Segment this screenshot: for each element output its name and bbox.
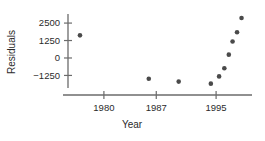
scatter-chart: −1250012502500 198019871995 Year Residua… <box>0 0 265 141</box>
x-axis: 198019871995 <box>63 91 252 113</box>
y-axis-title: Residuals <box>6 30 17 74</box>
x-tick-label: 1980 <box>93 102 114 113</box>
data-point <box>235 30 240 35</box>
y-tick-label: 1250 <box>39 35 60 46</box>
y-tick-label: −1250 <box>33 70 60 81</box>
data-point <box>176 79 181 84</box>
x-tick-label: 1987 <box>146 102 167 113</box>
data-point <box>239 16 244 21</box>
y-tick-label: 2500 <box>39 17 60 28</box>
x-tick-label: 1995 <box>206 102 227 113</box>
data-point <box>217 74 222 79</box>
data-point-group <box>78 16 244 86</box>
data-point <box>230 39 235 44</box>
y-tick-label: 0 <box>55 52 60 63</box>
chart-canvas: −1250012502500 198019871995 Year Residua… <box>0 0 265 141</box>
data-point <box>78 33 83 38</box>
data-point <box>146 76 151 81</box>
y-axis: −1250012502500 <box>33 14 72 88</box>
x-tick-group: 198019871995 <box>93 91 226 113</box>
x-axis-title: Year <box>122 119 143 130</box>
data-point <box>222 66 227 71</box>
y-tick-group: −1250012502500 <box>33 17 72 80</box>
data-point <box>227 52 232 57</box>
data-point <box>209 81 214 86</box>
